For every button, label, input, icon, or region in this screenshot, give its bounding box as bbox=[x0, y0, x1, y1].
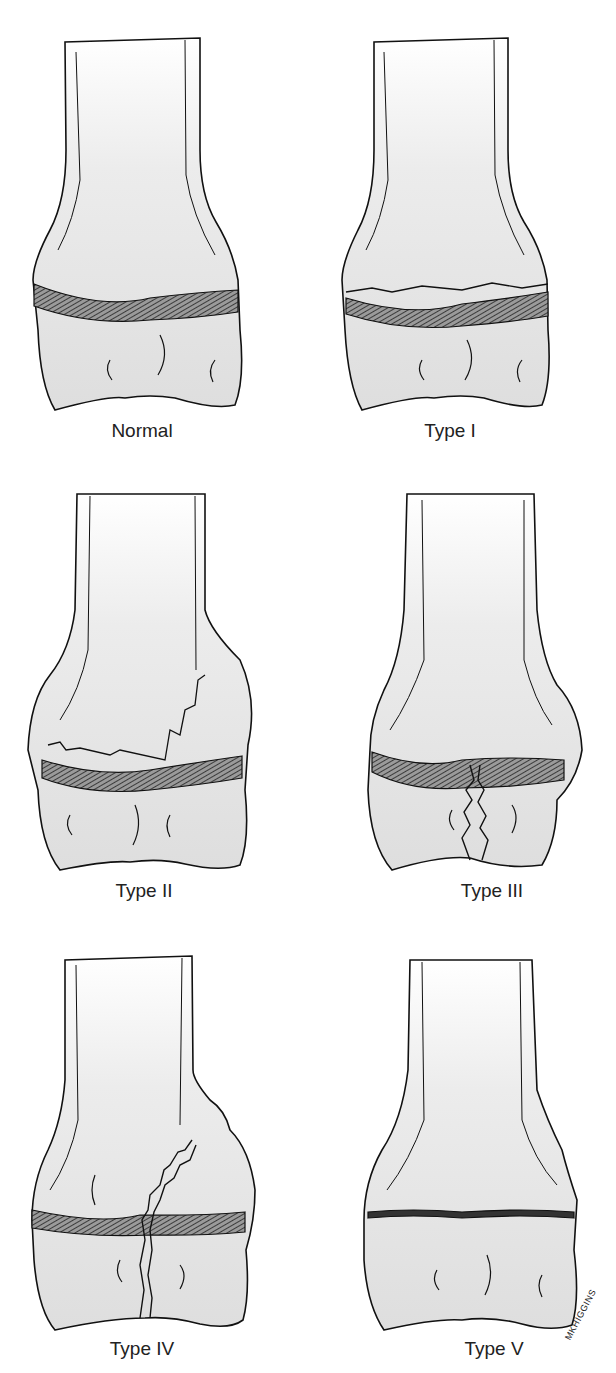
bone-type3-illustration bbox=[312, 460, 612, 910]
panel-type1: Type I bbox=[312, 0, 612, 450]
panel-type4: Type IV bbox=[0, 920, 300, 1370]
bone-type4-illustration bbox=[0, 920, 300, 1370]
panel-label-type4: Type IV bbox=[62, 1338, 222, 1360]
panel-normal: Normal bbox=[0, 0, 300, 450]
panel-label-normal: Normal bbox=[62, 420, 222, 442]
panel-label-type3: Type III bbox=[412, 880, 572, 902]
bone-type5-illustration bbox=[312, 920, 612, 1370]
panel-type3: Type III bbox=[312, 460, 612, 910]
panel-label-type5: Type V bbox=[414, 1338, 574, 1360]
bone-normal-illustration bbox=[0, 0, 300, 450]
bone-type1-illustration bbox=[312, 0, 612, 450]
bone-type2-illustration bbox=[0, 460, 300, 910]
panel-type2: Type II bbox=[0, 460, 300, 910]
panel-type5: Type V bbox=[312, 920, 612, 1370]
panel-label-type2: Type II bbox=[64, 880, 224, 902]
panel-label-type1: Type I bbox=[370, 420, 530, 442]
